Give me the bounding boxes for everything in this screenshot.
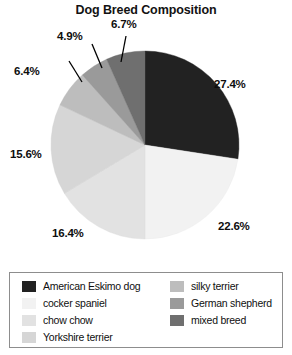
slice-label-american-eskimo-dog: 27.4% <box>214 78 246 90</box>
legend-item-yorkshire-terrier[interactable]: Yorkshire terrier <box>22 329 172 346</box>
legend-label: cocker spaniel <box>43 298 107 309</box>
slice-label-yorkshire-terrier: 15.6% <box>10 148 42 160</box>
legend-column-left: American Eskimo dog cocker spaniel chow … <box>22 278 172 346</box>
legend-item-american-eskimo-dog[interactable]: American Eskimo dog <box>22 278 172 295</box>
legend-label: German shepherd <box>191 298 272 309</box>
pie-slices <box>51 51 239 239</box>
legend-swatch-icon <box>170 315 184 326</box>
leader-line-silky-terrier <box>69 61 82 82</box>
legend-label: mixed breed <box>191 315 246 326</box>
legend-item-german-shepherd[interactable]: German shepherd <box>170 295 290 312</box>
legend-swatch-icon <box>170 298 184 309</box>
slice-label-silky-terrier: 6.4% <box>14 65 39 77</box>
legend-swatch-icon <box>22 298 36 309</box>
pie-chart-figure: Dog Breed Composition <box>0 0 292 355</box>
legend-swatch-icon <box>22 315 36 326</box>
legend-item-silky-terrier[interactable]: silky terrier <box>170 278 290 295</box>
slice-label-cocker-spaniel: 22.6% <box>218 220 250 232</box>
chart-legend: American Eskimo dog cocker spaniel chow … <box>9 272 283 348</box>
legend-item-chow-chow[interactable]: chow chow <box>22 312 172 329</box>
legend-label: chow chow <box>43 315 93 326</box>
legend-swatch-icon <box>170 281 184 292</box>
slice-label-chow-chow: 16.4% <box>52 227 84 239</box>
legend-label: American Eskimo dog <box>43 281 140 292</box>
pie-plot-area: 27.4% 22.6% 16.4% 15.6% 6.4% 4.9% 6.7% <box>0 18 292 266</box>
legend-label: Yorkshire terrier <box>43 332 112 343</box>
chart-title: Dog Breed Composition <box>0 3 292 17</box>
legend-item-mixed-breed[interactable]: mixed breed <box>170 312 290 329</box>
legend-swatch-icon <box>22 281 36 292</box>
legend-column-right: silky terrier German shepherd mixed bree… <box>170 278 290 329</box>
legend-item-cocker-spaniel[interactable]: cocker spaniel <box>22 295 172 312</box>
pie-slice-american-eskimo-dog[interactable] <box>145 51 239 159</box>
slice-label-german-shepherd: 4.9% <box>57 30 82 42</box>
slice-label-mixed-breed: 6.7% <box>111 18 136 30</box>
legend-label: silky terrier <box>191 281 239 292</box>
legend-swatch-icon <box>22 332 36 343</box>
